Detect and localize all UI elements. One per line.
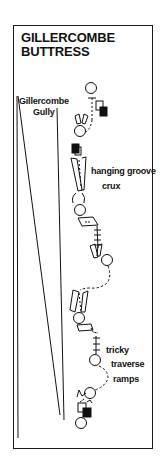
groove-icon [71, 158, 82, 191]
groove-wing-icon [82, 114, 88, 124]
bottom-belay [76, 390, 93, 429]
crux-belay [72, 193, 98, 226]
belay-circle-icon [90, 355, 101, 366]
hanging-groove [71, 157, 86, 191]
top-belay [86, 83, 108, 133]
groove-icon [70, 290, 79, 312]
square-filled-icon [100, 107, 107, 116]
belay-circle-icon [74, 313, 85, 324]
groove-wing-icon [75, 114, 81, 124]
belay-circle-icon [76, 418, 87, 429]
label-tricky: tricky [106, 345, 129, 355]
label-traverse: traverse [111, 359, 144, 369]
belay-circle-icon [75, 126, 86, 137]
belay-2 [72, 114, 88, 155]
tricky-traverse [85, 355, 109, 399]
slab-icon [77, 324, 93, 331]
belay-circle-icon [75, 205, 86, 216]
belay-4 [80, 244, 113, 290]
gully-lines [17, 96, 64, 438]
route-topo [0, 0, 165, 473]
label-hanging-groove: hanging groove [91, 166, 156, 176]
belay-circle-icon [85, 388, 96, 399]
belay-circle-icon [86, 83, 97, 94]
belay-circle-icon [102, 255, 113, 266]
label-ramps: ramps [113, 374, 139, 384]
label-gully: Gully [33, 107, 55, 117]
lower-groove [70, 290, 93, 331]
steps-ladder-2 [91, 328, 100, 354]
square-filled-icon [83, 408, 91, 417]
label-crux: crux [102, 181, 120, 191]
label-gillercombe: Gillercombe [19, 96, 69, 106]
